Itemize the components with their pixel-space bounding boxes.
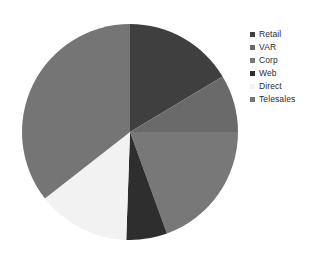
- legend-item-label: VAR: [259, 42, 276, 53]
- legend-item-label: Corp: [259, 55, 278, 66]
- square-marker-icon: [250, 71, 255, 76]
- square-marker-icon: [250, 58, 255, 63]
- legend-item-telesales[interactable]: Telesales: [249, 93, 295, 106]
- legend-item-direct[interactable]: Direct: [249, 80, 282, 93]
- pie-chart: RetailVARCorpWebDirectTelesales: [0, 0, 317, 256]
- chart-legend: RetailVARCorpWebDirectTelesales: [249, 28, 317, 106]
- pie-slice-group: [22, 24, 238, 240]
- square-marker-icon: [250, 45, 255, 50]
- legend-item-label: Direct: [259, 81, 282, 92]
- legend-item-retail[interactable]: Retail: [249, 28, 281, 41]
- legend-item-corp[interactable]: Corp: [249, 54, 278, 67]
- square-marker-icon: [250, 32, 255, 37]
- legend-item-label: Retail: [259, 29, 281, 40]
- square-marker-icon: [250, 97, 255, 102]
- legend-item-label: Web: [259, 68, 277, 79]
- square-marker-icon: [250, 84, 255, 89]
- legend-item-var[interactable]: VAR: [249, 41, 276, 54]
- legend-item-label: Telesales: [259, 94, 295, 105]
- pie-plot-area: [0, 0, 246, 256]
- pie-svg: [0, 0, 246, 256]
- legend-item-web[interactable]: Web: [249, 67, 277, 80]
